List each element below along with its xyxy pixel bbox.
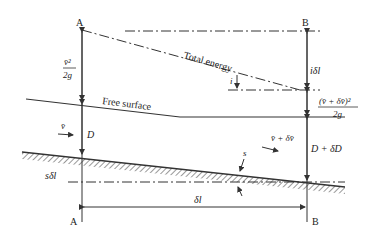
bed-slope-label: s	[243, 148, 247, 158]
velocity-a-arrow	[58, 134, 73, 135]
head-loss-label: iδl	[310, 65, 320, 76]
depth-a-label: D	[86, 129, 95, 140]
velocity-a-label: v̄	[61, 121, 65, 131]
energy-slope-label: i	[230, 76, 233, 86]
total-energy-label: Total energy	[182, 49, 233, 73]
velocity-head-b-numerator: (v̄ + δv̄)²	[319, 96, 351, 106]
length-label: δl	[194, 194, 202, 205]
velocity-b-arrow	[262, 147, 278, 151]
velocity-head-b-denominator: 2g	[333, 109, 343, 119]
section-b-top-label: B	[302, 17, 309, 28]
velocity-head-a-numerator: v̄²	[64, 57, 71, 67]
bed-slope-arrow-bottom	[238, 187, 242, 196]
velocity-b-label: v̄ + δv̄	[271, 133, 294, 143]
free-surface-label: Free surface	[102, 95, 153, 112]
open-channel-energy-diagram: A B A B Total energy Free surface v̄² 2g…	[0, 0, 373, 226]
section-a-top-label: A	[76, 17, 84, 28]
bed-slope-arrow-top	[240, 159, 244, 171]
section-a-bottom-label: A	[70, 216, 78, 226]
depth-b-label: D + δD	[310, 143, 343, 154]
channel-bed-hatch	[22, 152, 345, 194]
section-b-bottom-label: B	[312, 216, 319, 226]
bed-drop-label: sδl	[45, 170, 57, 181]
free-surface-line	[26, 99, 345, 117]
velocity-head-a-denominator: 2g	[63, 70, 73, 80]
